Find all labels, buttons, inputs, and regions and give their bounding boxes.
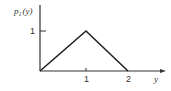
x-tick-label-1: 1 — [84, 74, 89, 84]
density-line — [40, 31, 128, 71]
x-tick-label-2: 2 — [126, 74, 131, 84]
x-axis-arrow-icon — [160, 69, 166, 73]
y-tick-label-1: 1 — [30, 26, 35, 36]
triangular-density-chart: p1(y) 1 1 2 y — [0, 0, 171, 91]
x-axis-label: y — [153, 74, 158, 84]
y-axis-label: p1(y) — [13, 6, 33, 17]
